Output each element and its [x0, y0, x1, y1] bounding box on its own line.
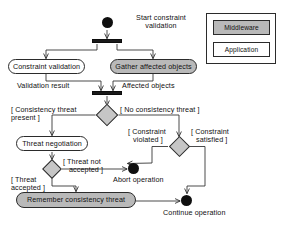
- edge-decision3-to-continue: [187, 147, 205, 194]
- legend-item-application: Application: [213, 42, 270, 57]
- legend-item-middleware: Middleware: [213, 20, 270, 35]
- action-threat-negotiation[interactable]: Threat negotiation: [16, 136, 88, 151]
- final-node-abort-label: Abort operation: [113, 176, 164, 184]
- activity-diagram-canvas: Start constraintvalidation Constraint va…: [0, 0, 284, 230]
- action-remember-consistency-threat[interactable]: Remember consistency threat: [16, 192, 136, 208]
- edge-fork-to-constraint-validation: [46, 44, 97, 59]
- guard-no-consistency-threat: [ No consistency threat ]: [120, 106, 200, 114]
- start-node-label: Start constraintvalidation: [118, 14, 204, 31]
- guard-constraint-violated: [ Constraintviolated ]: [128, 128, 166, 145]
- legend-item-middleware-label: Middleware: [224, 24, 259, 31]
- fork-bar: [92, 39, 122, 43]
- action-constraint-validation[interactable]: Constraint validation: [8, 59, 85, 74]
- edge-decision3-to-abort: [128, 147, 169, 164]
- flow-label-validation-result: Validation result: [17, 82, 69, 90]
- action-threat-negotiation-label: Threat negotiation: [22, 140, 82, 148]
- guard-threat-accepted: [ Threataccepted ]: [11, 176, 45, 193]
- final-node-continue: [181, 195, 192, 206]
- guard-constraint-satisfied: [ Constraintsatisfied ]: [191, 128, 229, 145]
- join-bar: [92, 91, 122, 95]
- final-node-continue-label: Continue operation: [163, 209, 226, 217]
- edge-decision2-to-remember: [52, 178, 76, 192]
- action-constraint-validation-label: Constraint validation: [13, 63, 80, 71]
- edge-fork-to-gather-affected-objects: [117, 44, 153, 59]
- action-gather-affected-objects-label: Gather affected objects: [115, 63, 191, 71]
- action-remember-consistency-threat-label: Remember consistency threat: [27, 196, 125, 204]
- guard-consistency-threat-present: [ Consistency threatpresent ]: [11, 106, 77, 123]
- legend-item-application-label: Application: [225, 46, 258, 53]
- legend-box: Middleware Application: [206, 13, 276, 64]
- flow-label-affected-objects: Affected objects: [122, 82, 175, 90]
- initial-node: [102, 17, 113, 28]
- action-gather-affected-objects[interactable]: Gather affected objects: [110, 59, 197, 74]
- final-node-abort: [128, 163, 139, 174]
- guard-threat-not-accepted: [ Threat notaccepted ]: [63, 158, 103, 175]
